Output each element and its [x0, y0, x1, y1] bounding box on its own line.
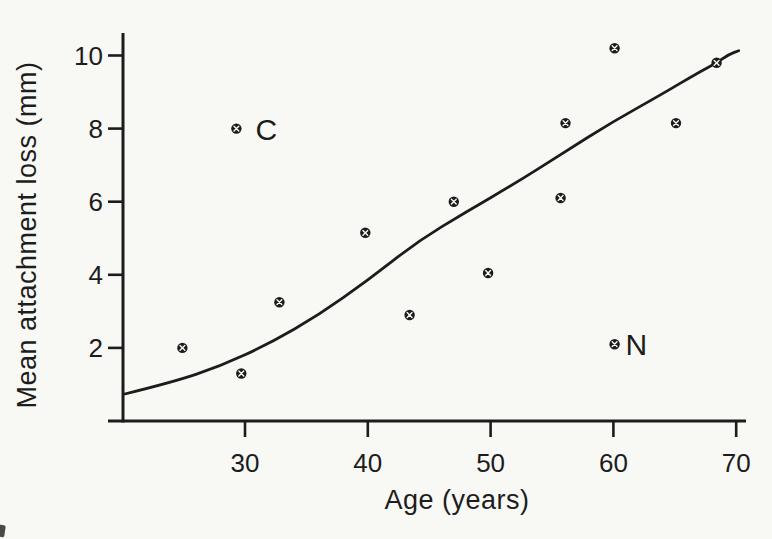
y-tick-label: 2 — [89, 333, 103, 363]
data-point-marker — [449, 197, 459, 207]
y-tick-label: 6 — [89, 187, 103, 217]
x-tick-label: 60 — [599, 448, 628, 478]
y-tick-label: 8 — [89, 114, 103, 144]
y-axis-title: Mean attachment loss (mm) — [12, 61, 43, 408]
point-label-C: C — [255, 113, 277, 146]
scatter-plot: 2468103040506070CN — [0, 0, 772, 539]
data-point-marker-N — [609, 339, 619, 349]
data-point-marker — [711, 58, 721, 68]
data-point-marker — [236, 368, 246, 378]
x-tick-label: 50 — [476, 448, 505, 478]
data-point-marker — [560, 118, 570, 128]
x-tick-label: 30 — [231, 448, 260, 478]
x-axis-title: Age (years) — [384, 485, 529, 516]
data-point-marker — [483, 268, 493, 278]
x-tick-label: 70 — [722, 448, 751, 478]
data-point-marker — [555, 193, 565, 203]
data-point-marker — [274, 297, 284, 307]
data-point-marker — [609, 43, 619, 53]
data-point-marker — [177, 343, 187, 353]
point-label-N: N — [626, 328, 648, 361]
data-point-marker — [404, 310, 414, 320]
scanned-figure-page: 2468103040506070CN Mean attachment loss … — [0, 0, 772, 539]
data-point-marker-C — [231, 123, 241, 133]
x-tick-label: 40 — [353, 448, 382, 478]
y-tick-label: 4 — [89, 260, 103, 290]
data-point-marker — [360, 228, 370, 238]
y-tick-label: 10 — [74, 41, 103, 71]
data-point-marker — [671, 118, 681, 128]
